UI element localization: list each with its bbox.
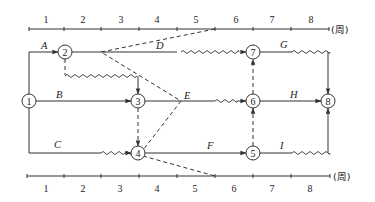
activity-e-label: E [183, 90, 191, 101]
node-1: 1 [22, 94, 36, 108]
node-8: 8 [321, 94, 335, 108]
svg-text:3: 3 [136, 96, 141, 107]
bottom-axis-unit: (周) [333, 171, 350, 182]
activity-g: G [260, 39, 330, 94]
top-axis-unit: (周) [331, 24, 348, 35]
svg-text:1: 1 [27, 96, 32, 107]
top-tick-8: 8 [309, 14, 314, 25]
svg-text:8: 8 [326, 96, 331, 107]
node-5: 5 [246, 146, 260, 160]
activity-a: A [29, 40, 58, 94]
activity-c-label: C [54, 139, 62, 150]
top-tick-5: 5 [194, 14, 199, 25]
svg-text:5: 5 [251, 148, 256, 159]
bottom-tick-2: 2 [81, 183, 86, 194]
bottom-tick-3: 3 [118, 183, 123, 194]
top-time-axis: 1 2 3 4 5 6 7 8 (周) [29, 14, 348, 35]
top-tick-4: 4 [155, 14, 160, 25]
activity-h: H [260, 89, 321, 101]
dummy-2-3 [65, 59, 138, 94]
node-3: 3 [131, 94, 145, 108]
activity-b: B [36, 89, 131, 101]
bottom-tick-7: 7 [270, 183, 275, 194]
activity-g-label: G [280, 39, 288, 50]
top-tick-2: 2 [81, 14, 86, 25]
bottom-time-axis: 1 2 3 4 5 6 7 8 (周) [27, 171, 350, 194]
bottom-tick-8: 8 [308, 183, 313, 194]
activity-i: I [260, 108, 330, 155]
svg-text:6: 6 [251, 96, 256, 107]
activity-e: E [145, 90, 246, 103]
node-7: 7 [246, 45, 260, 59]
bottom-tick-1: 1 [44, 183, 49, 194]
activity-i-label: I [279, 140, 284, 151]
top-tick-1: 1 [44, 14, 49, 25]
activity-c: C [29, 108, 131, 155]
activity-f: F [145, 140, 246, 153]
node-4: 4 [131, 146, 145, 160]
bottom-tick-4: 4 [155, 183, 160, 194]
node-6: 6 [246, 94, 260, 108]
top-tick-3: 3 [119, 14, 124, 25]
network-diagram: 1 2 3 4 5 6 7 8 (周) 1 2 3 4 5 6 7 8 (周) … [0, 0, 375, 202]
node-2: 2 [58, 45, 72, 59]
activity-h-label: H [289, 89, 299, 100]
top-tick-7: 7 [270, 14, 275, 25]
activity-a-label: A [40, 40, 48, 51]
svg-text:4: 4 [136, 148, 141, 159]
svg-text:7: 7 [251, 47, 256, 58]
top-tick-6: 6 [234, 14, 239, 25]
activity-b-label: B [56, 89, 63, 100]
bottom-tick-6: 6 [232, 183, 237, 194]
bottom-tick-5: 5 [193, 183, 198, 194]
activity-f-label: F [206, 140, 214, 151]
activity-d-label: D [155, 40, 164, 51]
activity-d: D [72, 40, 246, 54]
svg-text:2: 2 [63, 47, 68, 58]
